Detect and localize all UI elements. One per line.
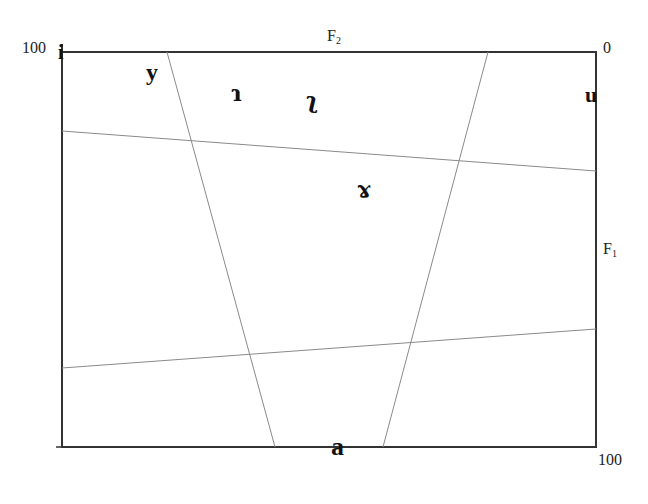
vowel-ram-horn: ɤ: [357, 178, 371, 200]
f1-axis-label: F1: [603, 241, 617, 259]
vowel-a: a: [331, 434, 344, 460]
vowel-quadrilateral: [0, 0, 648, 504]
upper-divider-line: [62, 131, 596, 171]
lower-divider-line: [62, 329, 596, 368]
vowel-apical-front: ɿ: [231, 82, 242, 104]
f2-max-label: 100: [22, 40, 46, 56]
vowel-apical-retroflex: ʅ: [306, 89, 318, 111]
vowel-i: i: [58, 42, 64, 62]
frame: [62, 52, 596, 447]
right-slant-line: [383, 52, 488, 447]
vowel-y: y: [146, 60, 158, 84]
vowel-u: u: [585, 84, 597, 106]
f2-axis-label: F2: [327, 28, 341, 46]
f2-min-label: 0: [603, 40, 611, 56]
f1-max-label: 100: [598, 452, 622, 468]
left-slant-line: [167, 52, 275, 447]
